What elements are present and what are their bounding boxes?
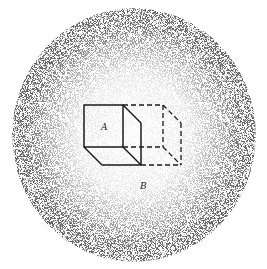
stipple-field bbox=[12, 8, 256, 262]
diagram-figure: A B bbox=[0, 0, 267, 269]
label-a: A bbox=[100, 122, 108, 132]
label-b: B bbox=[139, 181, 147, 191]
